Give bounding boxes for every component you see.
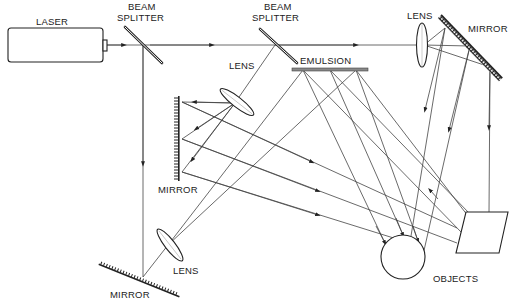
object-sphere — [381, 235, 425, 279]
laser-label: LASER — [36, 16, 68, 27]
lens-middle — [217, 85, 256, 119]
mirror-bottom-label: MIRROR — [110, 289, 150, 300]
objects-label: OBJECTS — [433, 273, 478, 284]
object-block — [456, 212, 508, 253]
mirror-left — [174, 96, 180, 181]
lens-bottom — [154, 226, 187, 264]
lens-bottom-label: LENS — [173, 265, 199, 276]
mirror-top-right-label: MIRROR — [468, 23, 508, 34]
emulsion — [292, 68, 368, 71]
laser — [8, 28, 107, 62]
lens-top-right-label: LENS — [407, 10, 433, 21]
beam-splitter-2-label-line1: BEAM — [264, 1, 292, 12]
beam-splitter-2-label-line2: SPLITTER — [252, 12, 299, 23]
lens-middle-label: LENS — [229, 60, 255, 71]
holography-diagram: LASER BEAM SPLITTER BEAM SPLITTER LENS M… — [0, 0, 517, 304]
beam-splitter-1-label-line2: SPLITTER — [117, 12, 164, 23]
emulsion-label: EMULSION — [300, 55, 351, 66]
beam-splitter-1-label-line1: BEAM — [128, 1, 156, 12]
lens-top-right — [417, 23, 428, 67]
mirror-left-label: MIRROR — [158, 184, 198, 195]
beam-splitter-2 — [260, 29, 297, 63]
